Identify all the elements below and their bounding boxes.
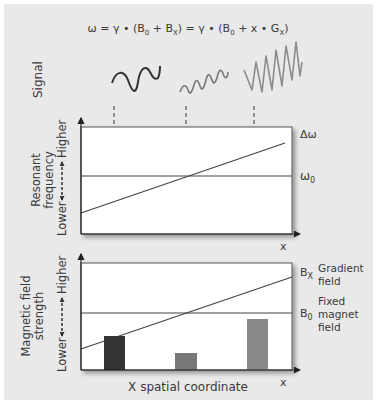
- gradient-field-label-2: field: [318, 275, 341, 287]
- bar-right: [247, 319, 268, 370]
- signal-wave-high: [244, 42, 302, 92]
- equation: ω = γ • (B0 + BX) = γ • (B0 + x • GX): [88, 22, 289, 37]
- svg-text:strength: strength: [32, 292, 46, 340]
- svg-text:Lower: Lower: [55, 201, 69, 236]
- bx-label: BX: [300, 266, 314, 281]
- svg-text:frequency: frequency: [42, 151, 56, 209]
- x-spatial-coordinate-label: X spatial coordinate: [128, 380, 248, 394]
- svg-text:Resonant: Resonant: [29, 153, 43, 207]
- field-x-label: x: [280, 376, 287, 389]
- frequency-y-scale: Lower Higher: [55, 119, 69, 236]
- frequency-y-title: Resonant frequency: [29, 151, 56, 209]
- mri-gradient-diagram: ω = γ • (B0 + BX) = γ • (B0 + x • GX) Si…: [0, 0, 377, 408]
- fixed-field-label-1: Fixed: [318, 295, 345, 307]
- frequency-panel: [81, 127, 292, 234]
- fixed-field-label-3: field: [318, 321, 341, 333]
- signal-wave-low: [112, 66, 160, 91]
- omega0-label: ω0: [300, 169, 315, 185]
- svg-text:Higher: Higher: [55, 255, 69, 294]
- signal-label: Signal: [31, 61, 45, 98]
- frequency-x-label: x: [280, 240, 287, 253]
- b0-label: B0: [300, 307, 313, 322]
- field-y-title: Magnetic field strength: [19, 275, 46, 356]
- fixed-field-label-2: magnet: [318, 308, 359, 320]
- delta-omega-label: Δω: [300, 128, 317, 141]
- svg-text:Higher: Higher: [55, 119, 69, 158]
- svg-text:Lower: Lower: [55, 337, 69, 372]
- signal-wave-medium: [180, 70, 228, 93]
- bar-left: [104, 336, 125, 370]
- svg-text:Magnetic field: Magnetic field: [19, 275, 33, 356]
- field-y-scale: Lower Higher: [55, 255, 69, 372]
- gradient-field-label-1: Gradient: [318, 262, 364, 274]
- bar-middle: [175, 353, 197, 370]
